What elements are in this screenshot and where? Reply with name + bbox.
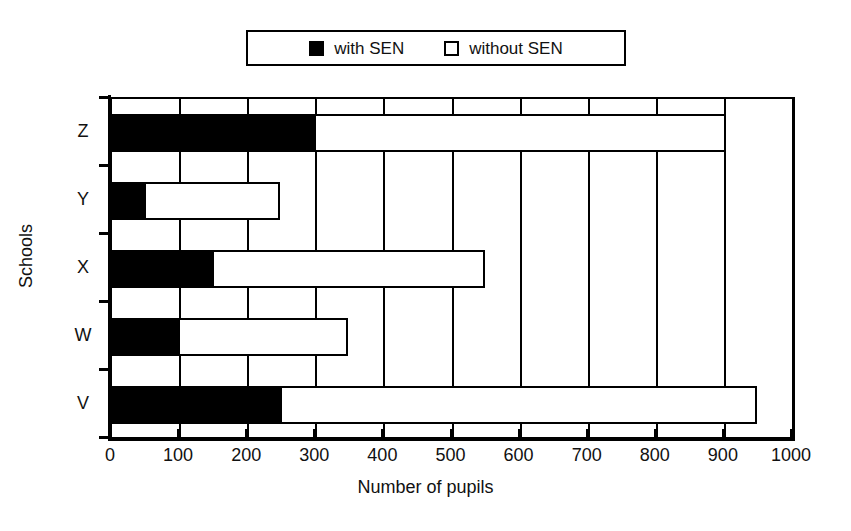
bar-row — [112, 318, 348, 356]
x-axis-tick-label: 200 — [216, 445, 276, 465]
bar-row — [112, 114, 726, 152]
y-axis-label-v: V — [70, 394, 96, 412]
bar-row — [112, 182, 280, 220]
x-axis-tick — [109, 429, 112, 441]
bar-chart: with SEN without SEN ZYXWV01002003004005… — [0, 0, 851, 531]
x-axis-tick-label: 800 — [625, 445, 685, 465]
y-axis-title: Schools — [16, 186, 36, 326]
x-axis-tick — [450, 429, 453, 441]
bar-segment-with-sen — [112, 114, 316, 152]
gridline — [792, 99, 794, 439]
bar-segment-without-sen — [212, 250, 484, 288]
x-axis-tick-label: 700 — [557, 445, 617, 465]
x-axis-title: Number of pupils — [0, 477, 851, 497]
legend-label-without-sen: without SEN — [469, 40, 563, 57]
y-axis-tick — [99, 96, 109, 99]
bar-segment-with-sen — [112, 386, 282, 424]
legend-item-without-sen: without SEN — [444, 40, 563, 57]
x-axis-tick-label: 300 — [284, 445, 344, 465]
bar-segment-with-sen — [112, 318, 180, 356]
bar-row — [112, 386, 757, 424]
y-axis-label-w: W — [70, 326, 96, 344]
y-axis-label-y: Y — [70, 190, 96, 208]
x-axis-tick — [654, 429, 657, 441]
x-axis-tick-label: 1000 — [761, 445, 821, 465]
bar-segment-without-sen — [314, 114, 726, 152]
bar-segment-with-sen — [112, 182, 146, 220]
y-axis-tick — [99, 368, 109, 371]
x-axis-tick-label: 600 — [489, 445, 549, 465]
bar-segment-without-sen — [280, 386, 757, 424]
x-axis-tick — [381, 429, 384, 441]
x-axis-tick — [177, 429, 180, 441]
y-axis-label-z: Z — [70, 122, 96, 140]
y-axis-line — [108, 95, 111, 441]
x-axis-tick — [790, 429, 793, 441]
hollow-square-icon — [444, 41, 459, 56]
y-axis-tick — [99, 164, 109, 167]
y-axis-tick — [99, 300, 109, 303]
y-axis-tick — [99, 436, 109, 439]
x-axis-tick — [518, 429, 521, 441]
plot-area — [110, 97, 795, 441]
bar-segment-without-sen — [178, 318, 348, 356]
bar-segment-without-sen — [144, 182, 280, 220]
y-axis-tick — [99, 232, 109, 235]
bar-row — [112, 250, 485, 288]
x-axis-tick — [245, 429, 248, 441]
x-axis-tick-label: 900 — [693, 445, 753, 465]
plot-inner — [112, 99, 793, 439]
legend-label-with-sen: with SEN — [334, 40, 404, 57]
x-axis-tick-label: 0 — [80, 445, 140, 465]
bar-segment-with-sen — [112, 250, 214, 288]
x-axis-tick — [586, 429, 589, 441]
legend-item-with-sen: with SEN — [309, 40, 404, 57]
x-axis-tick-label: 100 — [148, 445, 208, 465]
y-axis-label-x: X — [70, 258, 96, 276]
chart-legend: with SEN without SEN — [246, 30, 626, 66]
x-axis-tick-label: 400 — [352, 445, 412, 465]
x-axis-tick — [313, 429, 316, 441]
x-axis-tick — [722, 429, 725, 441]
filled-square-icon — [309, 41, 324, 56]
x-axis-tick-label: 500 — [421, 445, 481, 465]
